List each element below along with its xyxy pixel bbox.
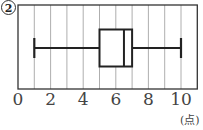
x-tick-label: 2 [45, 89, 56, 109]
unit-label: (点) [180, 111, 200, 127]
x-tick-label: 10 [170, 89, 192, 109]
x-tick-label: 6 [110, 89, 121, 109]
x-tick-label: 0 [13, 89, 24, 109]
x-tick-label: 4 [78, 89, 89, 109]
x-tick-label: 8 [143, 89, 154, 109]
box-plot [0, 0, 203, 130]
iqr-box [100, 30, 133, 67]
